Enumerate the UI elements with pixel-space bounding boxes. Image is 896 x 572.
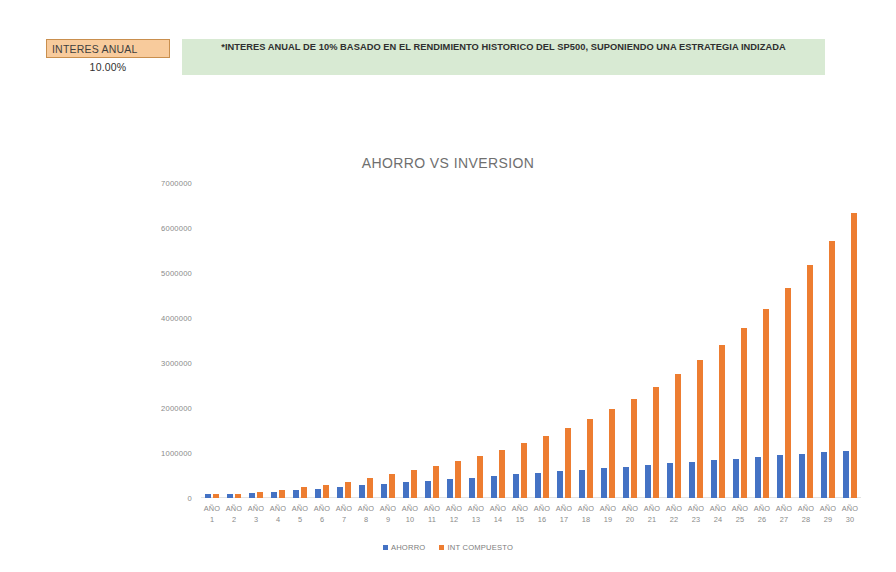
x-axis-label-prefix: AÑO <box>754 504 770 513</box>
bar-int-compuesto[interactable] <box>675 374 681 498</box>
y-axis-tick: 0 <box>188 494 192 503</box>
bar-int-compuesto[interactable] <box>235 494 241 498</box>
bar-int-compuesto[interactable] <box>279 490 285 498</box>
x-axis-label: AÑO27 <box>773 503 795 525</box>
bar-group <box>575 183 597 498</box>
bar-ahorro[interactable] <box>557 471 563 498</box>
legend-item[interactable]: AHORRO <box>383 543 426 552</box>
legend-item[interactable]: INT COMPUESTO <box>439 543 513 552</box>
bar-int-compuesto[interactable] <box>389 474 395 498</box>
bar-int-compuesto[interactable] <box>653 387 659 498</box>
bar-int-compuesto[interactable] <box>543 436 549 498</box>
bar-group <box>289 183 311 498</box>
bar-int-compuesto[interactable] <box>323 485 329 498</box>
x-axis-label: AÑO9 <box>377 503 399 525</box>
bar-ahorro[interactable] <box>425 481 431 498</box>
bar-ahorro[interactable] <box>579 470 585 498</box>
bar-group <box>421 183 443 498</box>
x-axis-label-number: 24 <box>707 514 729 525</box>
bar-ahorro[interactable] <box>337 487 343 498</box>
y-axis-tick: 6000000 <box>161 224 192 233</box>
bar-ahorro[interactable] <box>249 493 255 498</box>
x-axis-label-prefix: AÑO <box>248 504 264 513</box>
chart-plot-area: 7000000600000050000004000000300000020000… <box>201 183 861 498</box>
bar-ahorro[interactable] <box>755 457 761 498</box>
bar-int-compuesto[interactable] <box>411 470 417 498</box>
bar-ahorro[interactable] <box>645 465 651 498</box>
x-axis-label-prefix: AÑO <box>820 504 836 513</box>
bar-ahorro[interactable] <box>777 455 783 498</box>
bar-int-compuesto[interactable] <box>521 443 527 498</box>
x-axis-label-number: 14 <box>487 514 509 525</box>
x-axis-label-prefix: AÑO <box>710 504 726 513</box>
x-axis-label: AÑO8 <box>355 503 377 525</box>
x-axis-label: AÑO3 <box>245 503 267 525</box>
bar-int-compuesto[interactable] <box>631 399 637 498</box>
bar-int-compuesto[interactable] <box>697 360 703 498</box>
bar-int-compuesto[interactable] <box>433 466 439 498</box>
bar-ahorro[interactable] <box>359 485 365 498</box>
bar-int-compuesto[interactable] <box>829 241 835 499</box>
y-axis-tick: 5000000 <box>161 269 192 278</box>
bar-int-compuesto[interactable] <box>257 492 263 498</box>
x-axis-label-prefix: AÑO <box>578 504 594 513</box>
x-axis-label: AÑO21 <box>641 503 663 525</box>
bar-ahorro[interactable] <box>447 479 453 498</box>
x-axis-label-number: 2 <box>223 514 245 525</box>
bar-ahorro[interactable] <box>799 454 805 498</box>
x-axis-label-number: 3 <box>245 514 267 525</box>
bar-group <box>355 183 377 498</box>
bar-ahorro[interactable] <box>513 474 519 498</box>
bar-ahorro[interactable] <box>271 492 277 498</box>
x-axis-label-prefix: AÑO <box>226 504 242 513</box>
bar-ahorro[interactable] <box>711 460 717 498</box>
x-axis-label: AÑO6 <box>311 503 333 525</box>
bar-int-compuesto[interactable] <box>213 494 219 498</box>
bar-int-compuesto[interactable] <box>345 482 351 498</box>
bar-int-compuesto[interactable] <box>587 419 593 498</box>
bar-ahorro[interactable] <box>403 482 409 498</box>
bar-ahorro[interactable] <box>843 451 849 498</box>
bar-ahorro[interactable] <box>293 490 299 498</box>
bar-ahorro[interactable] <box>689 462 695 498</box>
x-axis-label-number: 19 <box>597 514 619 525</box>
bar-int-compuesto[interactable] <box>367 478 373 498</box>
x-axis-label-prefix: AÑO <box>402 504 418 513</box>
bar-int-compuesto[interactable] <box>719 345 725 498</box>
x-axis-label: AÑO28 <box>795 503 817 525</box>
bar-ahorro[interactable] <box>667 463 673 498</box>
x-axis-label: AÑO18 <box>575 503 597 525</box>
y-axis-tick: 1000000 <box>161 449 192 458</box>
bar-int-compuesto[interactable] <box>851 213 857 498</box>
bar-ahorro[interactable] <box>381 484 387 498</box>
bar-int-compuesto[interactable] <box>741 328 747 498</box>
bar-ahorro[interactable] <box>205 494 211 498</box>
bar-ahorro[interactable] <box>227 494 233 498</box>
bar-ahorro[interactable] <box>623 467 629 499</box>
bar-group <box>201 183 223 498</box>
bar-ahorro[interactable] <box>535 473 541 498</box>
bar-ahorro[interactable] <box>469 478 475 498</box>
bar-int-compuesto[interactable] <box>565 428 571 498</box>
bar-int-compuesto[interactable] <box>785 288 791 498</box>
x-axis-label-number: 29 <box>817 514 839 525</box>
bar-int-compuesto[interactable] <box>455 461 461 498</box>
x-axis-label: AÑO22 <box>663 503 685 525</box>
bar-int-compuesto[interactable] <box>763 309 769 498</box>
bar-int-compuesto[interactable] <box>807 265 813 498</box>
bar-int-compuesto[interactable] <box>609 409 615 498</box>
bar-group <box>399 183 421 498</box>
bar-ahorro[interactable] <box>601 468 607 498</box>
bar-group <box>465 183 487 498</box>
bar-ahorro[interactable] <box>491 476 497 498</box>
bar-group <box>839 183 861 498</box>
bar-int-compuesto[interactable] <box>499 450 505 498</box>
x-axis-label-prefix: AÑO <box>842 504 858 513</box>
x-axis-label-number: 25 <box>729 514 751 525</box>
bar-group <box>663 183 685 498</box>
bar-ahorro[interactable] <box>733 459 739 498</box>
bar-ahorro[interactable] <box>821 452 827 498</box>
bar-int-compuesto[interactable] <box>477 456 483 498</box>
bar-ahorro[interactable] <box>315 489 321 498</box>
bar-int-compuesto[interactable] <box>301 487 307 498</box>
